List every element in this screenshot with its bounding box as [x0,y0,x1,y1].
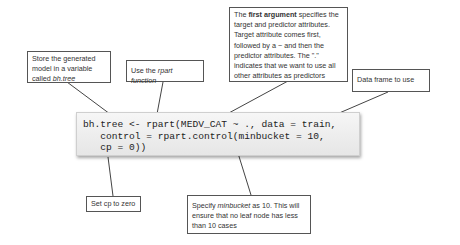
callout-data-frame-text: Data frame to use [357,75,414,84]
code-line-1: bh.tree <- rpart(MEDV_CAT ~ ., data = tr… [83,119,359,131]
callout-minbucket-emphasis: minbucket [218,201,251,210]
connector-store-model [67,82,110,114]
callout-minbucket-prefix: Specify [192,201,218,210]
callout-minbucket: Specify minbucket as 10. This will ensur… [187,195,311,234]
connector-use-rpart [157,82,163,114]
code-block: bh.tree <- rpart(MEDV_CAT ~ ., data = tr… [76,112,360,156]
connector-set-cp [108,157,113,196]
callout-data-frame: Data frame to use [352,69,430,92]
callout-first-argument: The first argument specifies the target … [229,7,348,82]
connector-first-argument [227,81,288,114]
code-line-3: cp = 0)) [83,142,359,154]
callout-first-argument-rest: specifies the target and predictor attri… [234,10,339,80]
callout-first-argument-bold: first argument [248,10,296,19]
callout-set-cp-text: Set cp to zero [91,199,135,208]
callout-store-model: Store the generated model in a variable … [27,51,111,83]
callout-store-model-emphasis: bh.tree [53,74,75,83]
callout-first-argument-prefix: The [234,10,248,19]
code-line-2: control = rpart.control(minbucket = 10, [83,131,359,143]
connector-minbucket [237,150,251,195]
callout-set-cp: Set cp to zero [86,196,141,212]
callout-use-rpart: Use the rpart function [126,60,204,82]
callout-use-rpart-text: Use the [131,66,158,75]
